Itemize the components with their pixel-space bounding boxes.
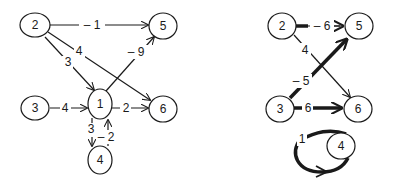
node-3: 3	[266, 96, 294, 122]
edge-3-6: 6	[294, 101, 342, 115]
svg-text:2: 2	[32, 18, 39, 32]
edge-weight: – 6	[314, 19, 331, 33]
svg-text:6: 6	[355, 102, 362, 116]
svg-text:5: 5	[356, 19, 363, 33]
node-6: 6	[344, 96, 372, 122]
node-4: 4	[327, 133, 355, 159]
edge-2-1: 3	[45, 37, 94, 90]
svg-text:5: 5	[160, 19, 167, 33]
edge-weight: – 1	[84, 18, 101, 32]
edge-weight: 4	[302, 43, 309, 57]
edge-weight: – 2	[98, 130, 115, 144]
svg-text:4: 4	[338, 139, 345, 153]
edge-4-1: – 2	[96, 120, 118, 146]
edge-1-4: 3	[86, 118, 97, 146]
svg-text:6: 6	[160, 102, 167, 116]
edge-2-5: – 6	[296, 19, 343, 33]
edge-weight: 6	[305, 101, 312, 115]
edge-3-5: – 5	[290, 39, 347, 98]
edge-weight: 4	[76, 44, 83, 58]
node-5: 5	[149, 13, 177, 39]
node-5: 5	[345, 13, 373, 39]
left-graph: – 1 4 3 – 9 4 2	[20, 13, 177, 174]
right-graph: – 6 4 – 5 6 1 2	[266, 13, 373, 177]
edge-weight: 3	[65, 55, 72, 69]
svg-text:4: 4	[97, 153, 104, 167]
edge-weight: 4	[62, 101, 69, 115]
edge-weight: – 5	[293, 74, 310, 88]
node-2: 2	[20, 13, 50, 37]
node-2: 2	[268, 13, 296, 39]
svg-text:2: 2	[279, 19, 286, 33]
edge-weight: 1	[299, 132, 306, 146]
node-1: 1	[88, 89, 112, 119]
edge-1-6: 2	[112, 101, 148, 115]
edge-weight: 2	[123, 101, 130, 115]
node-4: 4	[88, 146, 112, 174]
edge-3-1: 4	[50, 101, 87, 115]
svg-text:1: 1	[97, 97, 104, 111]
edge-1-5: – 9	[106, 37, 154, 91]
edge-weight: – 9	[128, 45, 145, 59]
svg-text:3: 3	[32, 101, 39, 115]
node-6: 6	[149, 96, 177, 122]
edge-2-5: – 1	[50, 18, 148, 32]
graph-diagram: – 1 4 3 – 9 4 2	[0, 0, 400, 187]
node-3: 3	[21, 96, 49, 120]
edge-weight: 3	[88, 122, 95, 136]
svg-text:3: 3	[277, 102, 284, 116]
